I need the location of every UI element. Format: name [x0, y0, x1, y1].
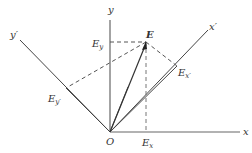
vector-e-label: E: [146, 30, 154, 40]
ex-prime-sub: x′: [185, 72, 191, 80]
ey-prime-vector: [66, 88, 110, 132]
x-prime-mark: ′: [215, 21, 217, 32]
e-vector: [110, 46, 145, 132]
ex-sub: x: [149, 142, 153, 150]
y-prime-axis-label: y′: [10, 30, 18, 40]
y-axis-label: y: [108, 5, 114, 15]
ey-prime-projection-line: [66, 42, 146, 88]
ey-label: Ey: [92, 39, 103, 51]
x-axis-label: x: [243, 127, 249, 137]
x-prime-axis: [110, 30, 208, 132]
ex-label: Ex: [142, 138, 153, 150]
ex-prime-label: Ex′: [178, 68, 191, 80]
ey-prime-sub: y′: [55, 98, 61, 106]
x-prime-axis-label: x′: [209, 22, 217, 32]
ey-prime-label: Ey′: [48, 94, 61, 106]
ex-prime-vector-line: [110, 66, 177, 132]
ey-sub: y: [99, 43, 103, 51]
origin-label: O: [106, 137, 114, 147]
y-prime-mark: ′: [16, 29, 18, 40]
ex-prime-projection-line: [146, 42, 177, 66]
